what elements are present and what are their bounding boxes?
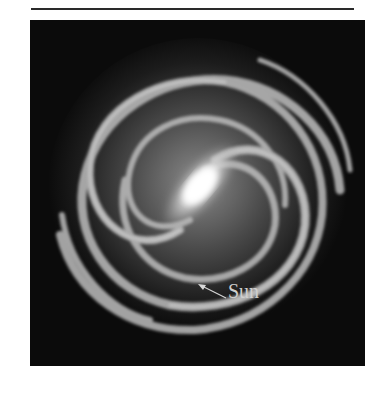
galaxy-illustration [30, 20, 365, 366]
sun-label: Sun [228, 280, 259, 303]
galaxy-image [30, 20, 365, 366]
top-rule-divider [31, 8, 354, 10]
